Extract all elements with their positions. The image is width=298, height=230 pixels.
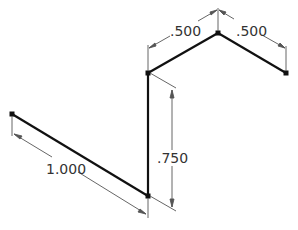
dimension-500-right-label: .500: [236, 23, 267, 39]
dimension-500-left-label: .500: [170, 23, 201, 39]
point-p4[interactable]: [216, 31, 221, 36]
dimension-750-label: .750: [157, 150, 188, 166]
dimension-750[interactable]: [150, 73, 176, 211]
point-p2[interactable]: [146, 194, 151, 199]
point-p3[interactable]: [146, 71, 151, 76]
segment-p1-p2[interactable]: [12, 114, 148, 196]
point-p5[interactable]: [284, 71, 289, 76]
segment-p4-p5[interactable]: [218, 33, 286, 73]
dimension-1000-label: 1.000: [46, 161, 86, 177]
point-p1[interactable]: [10, 112, 15, 117]
segment-p3-p4[interactable]: [148, 33, 218, 73]
sketch-svg: 1.000 .750 .500 .500: [0, 0, 298, 230]
sketch-canvas: 1.000 .750 .500 .500: [0, 0, 298, 230]
